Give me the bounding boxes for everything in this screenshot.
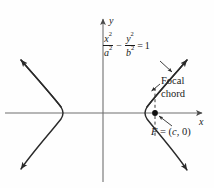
hyperbola-left-branch xyxy=(21,60,63,169)
focal-chord-label-line2: chord xyxy=(161,88,185,101)
y-axis-label: y xyxy=(109,16,113,26)
focal-chord-leader-line xyxy=(152,84,161,91)
equation-right-side: 1 xyxy=(145,41,150,51)
equation-term-2: y2 b2 xyxy=(125,33,135,59)
focus-coordinate-label: F = (c, 0) xyxy=(151,127,191,138)
equation-term-1: x2 a2 xyxy=(103,33,113,59)
equation-term-2-numerator-exponent: 2 xyxy=(131,30,134,37)
equation-term-1-denominator: a2 xyxy=(103,45,113,58)
focus-leader-line xyxy=(159,116,172,126)
focal-chord-label-line1: Focal xyxy=(161,75,185,88)
equation-equals-sign: = xyxy=(137,41,143,51)
focal-chord-label: Focal chord xyxy=(161,75,185,100)
equation-term-1-denominator-exponent: 2 xyxy=(109,44,112,51)
equation-term-1-numerator-exponent: 2 xyxy=(109,30,112,37)
hyperbola-left-branch-upper-tip xyxy=(21,60,61,107)
equation-term-2-denominator: b2 xyxy=(125,45,135,58)
equation-operator: − xyxy=(115,41,123,51)
hyperbola-figure: y x x2 a2 − y2 b2 = 1 Focal chord F = (c… xyxy=(0,0,214,188)
equation-term-2-denominator-exponent: 2 xyxy=(131,44,134,51)
equation-leader-line xyxy=(160,61,172,72)
focus-point-marker xyxy=(152,110,158,116)
x-axis-label: x xyxy=(199,117,203,127)
hyperbola-equation: x2 a2 − y2 b2 = 1 xyxy=(103,33,150,59)
